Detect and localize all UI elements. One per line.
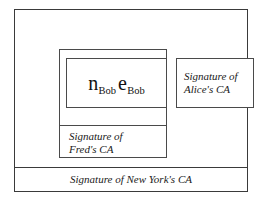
bob-public-key-text: nBobeBob bbox=[88, 73, 144, 93]
bob-exponent-term: eBob bbox=[118, 72, 145, 94]
new-york-ca-certificate-box: Signature ofFred's CA Signature ofAlice'… bbox=[14, 9, 248, 192]
alice-ca-signature-line2: Alice's CA bbox=[184, 83, 230, 95]
alice-ca-signature-strip: Signature ofAlice's CA bbox=[177, 59, 253, 107]
bob-public-key-box: nBobeBob bbox=[66, 58, 167, 108]
new-york-ca-signature-text: Signature of New York's CA bbox=[70, 173, 192, 186]
certificate-chain-figure: Signature ofFred's CA Signature ofAlice'… bbox=[0, 0, 258, 202]
alice-ca-certificate-box: Signature ofAlice's CA bbox=[176, 58, 254, 108]
fred-ca-signature-strip: Signature ofFred's CA bbox=[60, 125, 166, 159]
bob-modulus-term: nBob bbox=[88, 72, 116, 94]
bob-exponent-base: e bbox=[118, 72, 127, 94]
bob-exponent-subscript: Bob bbox=[127, 85, 145, 96]
fred-ca-signature-line2: Fred's CA bbox=[69, 143, 113, 155]
fred-ca-signature-text: Signature ofFred's CA bbox=[69, 130, 123, 156]
alice-ca-signature-line1: Signature of bbox=[184, 70, 238, 82]
new-york-ca-signature-strip: Signature of New York's CA bbox=[15, 167, 247, 191]
bob-modulus-subscript: Bob bbox=[99, 85, 117, 96]
bob-modulus-base: n bbox=[88, 72, 98, 94]
fred-ca-signature-line1: Signature of bbox=[69, 130, 123, 142]
alice-ca-signature-text: Signature ofAlice's CA bbox=[184, 70, 253, 96]
